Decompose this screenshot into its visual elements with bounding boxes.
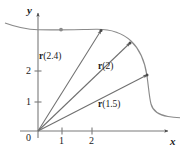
origin-label: 0	[26, 133, 31, 143]
vector-label-r-1-5: r(1.5)	[98, 100, 120, 110]
vector-label-r-2-4-arg: (2.4)	[43, 51, 61, 61]
x-tick-label-1: 1	[59, 136, 64, 146]
vector-label-r-2-arg: (2)	[102, 61, 113, 71]
x-axis-label: x	[170, 136, 176, 147]
y-tick-label-2: 2	[26, 66, 31, 76]
y-tick-label-1: 1	[26, 97, 31, 107]
vector-tip-r-2	[129, 42, 132, 45]
vector-label-r-1-5-arg: (1.5)	[102, 99, 120, 109]
vector-label-r-2: r(2)	[98, 62, 113, 72]
curve-point-marker	[59, 28, 63, 32]
y-axis-label: y	[27, 5, 32, 16]
vector-tip-r-1-5	[146, 74, 149, 77]
vector-tip-r-2-4	[100, 29, 103, 32]
vector-r-1-5	[38, 75, 147, 131]
vector-label-r-2-4: r(2.4)	[39, 52, 61, 62]
vector-curve-figure: y x 0 1 2 1 2 r(2.4) r(2) r(1.5)	[0, 0, 183, 158]
vector-r-2-4	[38, 31, 101, 132]
x-tick-label-2: 2	[89, 136, 94, 146]
